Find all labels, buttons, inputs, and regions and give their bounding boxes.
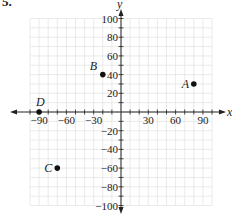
point-dot-icon [36,109,42,115]
coordinate-plane: x y −90−60−30306090 10080604020−20−40−60… [0,0,232,214]
point-dot-icon [100,72,106,78]
point-label: B [90,59,98,73]
point-label: D [35,95,45,109]
x-axis-label: x [226,105,232,119]
x-tick-label: −60 [58,114,76,126]
point-a: A [181,77,197,91]
y-tick-label: −20 [101,125,119,137]
y-axis-label: y [116,0,123,11]
y-tick-label: 40 [107,69,119,81]
point-dot-icon [55,165,61,171]
y-tick-label: 100 [102,13,119,25]
y-tick-label: −80 [101,181,119,193]
y-tick-label: −40 [101,143,119,155]
y-tick-label: −60 [101,162,119,174]
x-tick-label: −90 [30,114,48,126]
x-tick-label: 60 [170,114,182,126]
point-label: C [44,161,53,175]
x-tick-labels: −90−60−30306090 [30,114,208,126]
y-tick-label: −100 [95,200,118,212]
x-axis-right-arrow-icon [219,110,226,115]
x-tick-label: 30 [143,114,155,126]
point-c: C [44,161,60,175]
x-axis-left-arrow-icon [10,110,17,115]
y-tick-label: 80 [107,31,119,43]
y-tick-label: 60 [107,50,119,62]
x-tick-label: 90 [197,114,209,126]
point-label: A [181,77,190,91]
y-axis-down-arrow-icon [119,207,124,214]
point-dot-icon [191,81,197,87]
y-tick-label: 20 [107,87,119,99]
